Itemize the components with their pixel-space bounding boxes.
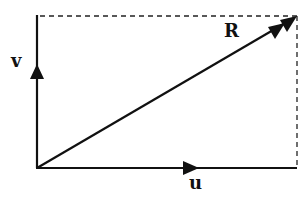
vector-v-arrowhead-icon xyxy=(30,64,44,79)
vector-v-label: v xyxy=(11,52,21,70)
vector-r-label: R xyxy=(224,22,239,40)
vector-r-arrowhead-2-icon xyxy=(280,16,297,32)
vector-r-line xyxy=(37,19,292,168)
vector-r-arrowhead-1-icon xyxy=(268,23,285,39)
vector-u-label: u xyxy=(189,174,202,192)
vector-diagram xyxy=(0,0,307,197)
